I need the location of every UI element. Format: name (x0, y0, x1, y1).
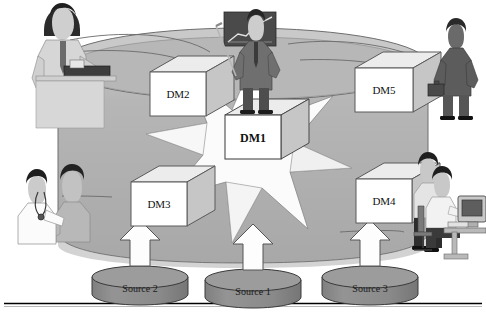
source-cylinder-source3[interactable]: Source 3 (322, 266, 418, 305)
cube-dm5[interactable]: DM5 (355, 52, 441, 112)
cube-label: DM2 (166, 88, 189, 100)
cube-dm3[interactable]: DM3 (131, 166, 215, 226)
cube-dm2[interactable]: DM2 (150, 56, 234, 116)
diagram-svg: Source 2 Source 1 Source 3 (0, 0, 486, 315)
person-office-workers (412, 152, 486, 259)
source-label: Source 1 (235, 286, 270, 297)
diagram-canvas: Source 2 Source 1 Source 3 (0, 0, 486, 315)
cube-label: DM1 (240, 131, 266, 145)
source-label: Source 3 (352, 283, 387, 294)
person-doctor-patient (18, 164, 90, 244)
cube-label: DM3 (147, 198, 171, 210)
source-cylinder-source1[interactable]: Source 1 (205, 269, 301, 308)
source-cylinder-source2[interactable]: Source 2 (92, 266, 188, 305)
source-cylinders: Source 2 Source 1 Source 3 (92, 266, 418, 308)
cube-label: DM5 (372, 84, 396, 96)
cube-label: DM4 (372, 195, 396, 207)
source-label: Source 2 (122, 283, 157, 294)
